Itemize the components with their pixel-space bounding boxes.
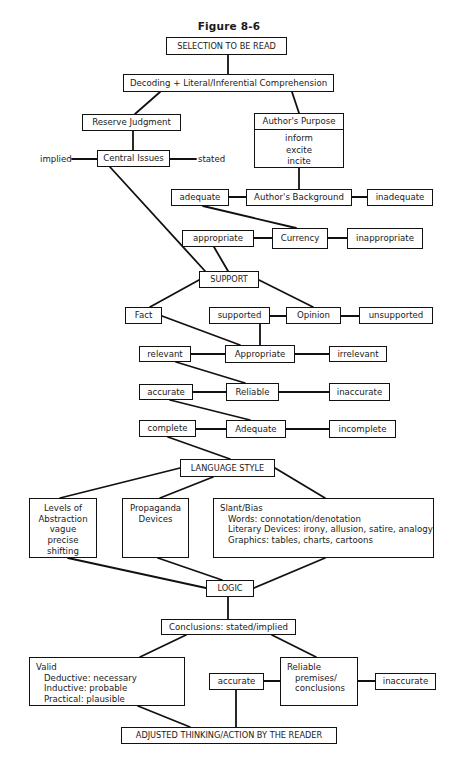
propaganda-line: Devices	[139, 514, 173, 525]
node-premises-inaccurate: inaccurate	[375, 673, 436, 690]
node-adjusted-thinking: ADJUSTED THINKING/ACTION BY THE READER	[121, 727, 337, 744]
node-currency: Currency	[272, 228, 328, 249]
node-language-style: LANGUAGE STYLE	[180, 459, 275, 477]
figure-title: Figure 8-6	[0, 20, 458, 32]
levels-line: Levels of	[44, 503, 82, 514]
node-appropriate: Appropriate	[225, 345, 295, 363]
slant-bias-line: Graphics: tables, charts, cartoons	[220, 535, 373, 546]
slant-bias-line: Words: connotation/denotation	[220, 514, 361, 525]
purpose-item: incite	[287, 156, 311, 167]
node-slant-bias: Slant/Bias Words: connotation/denotation…	[213, 498, 434, 558]
authors-purpose-header: Author's Purpose	[255, 114, 343, 130]
reliable-premises-line: premises/	[287, 673, 337, 684]
propaganda-line: Propaganda	[130, 503, 181, 514]
slant-bias-heading: Slant/Bias	[220, 503, 263, 514]
levels-line: Abstraction	[38, 514, 87, 525]
valid-line: Inductive: probable	[36, 683, 127, 694]
node-fact: Fact	[125, 307, 162, 324]
purpose-item: inform	[285, 133, 313, 144]
label-stated: stated	[198, 155, 225, 164]
node-levels-of-abstraction: Levels of Abstraction vague precise shif…	[29, 498, 97, 558]
valid-line: Deductive: necessary	[36, 673, 137, 684]
node-complete: complete	[139, 420, 196, 437]
levels-line: shifting	[47, 546, 79, 557]
valid-line: Practical: plausible	[36, 694, 125, 705]
slant-bias-line: Literary Devices: irony, allusion, satir…	[220, 524, 433, 535]
valid-heading: Valid	[36, 662, 57, 673]
node-valid: Valid Deductive: necessary Inductive: pr…	[29, 657, 185, 706]
node-central-issues: Central Issues	[97, 150, 170, 167]
node-opinion-supported: supported	[209, 307, 270, 324]
node-premises-accurate: accurate	[209, 673, 264, 690]
node-authors-purpose: Author's Purpose inform excite incite	[254, 113, 344, 168]
node-reliable-premises: Reliable premises/ conclusions	[280, 657, 358, 706]
node-opinion-unsupported: unsupported	[359, 307, 433, 324]
levels-line: precise	[48, 535, 79, 546]
node-support: SUPPORT	[199, 271, 259, 288]
node-authors-background: Author's Background	[246, 189, 352, 206]
node-decoding-comprehension: Decoding + Literal/Inferential Comprehen…	[123, 74, 334, 92]
node-adequate: Adequate	[226, 420, 286, 438]
node-selection-to-be-read: SELECTION TO BE READ	[166, 37, 287, 55]
authors-purpose-items: inform excite incite	[285, 130, 313, 167]
node-currency-appropriate: appropriate	[182, 230, 254, 247]
levels-line: vague	[50, 524, 77, 535]
node-inaccurate: inaccurate	[329, 383, 390, 401]
node-currency-inappropriate: inappropriate	[347, 228, 423, 249]
node-background-adequate: adequate	[171, 189, 229, 206]
node-propaganda-devices: Propaganda Devices	[122, 498, 189, 558]
node-reliable: Reliable	[226, 383, 279, 401]
node-accurate: accurate	[139, 384, 193, 400]
node-relevant: relevant	[139, 346, 191, 362]
reliable-premises-line: Reliable	[287, 662, 321, 673]
node-incomplete: incomplete	[329, 420, 396, 438]
reliable-premises-line: conclusions	[287, 683, 345, 694]
purpose-item: excite	[286, 145, 312, 156]
node-reserve-judgment: Reserve Judgment	[82, 114, 181, 131]
label-implied: implied	[40, 155, 72, 164]
flowchart-canvas: Figure 8-6 SELECTION TO BE READ Decoding…	[0, 0, 458, 774]
node-background-inadequate: inadequate	[367, 189, 433, 206]
node-irrelevant: irrelevant	[329, 346, 387, 362]
node-conclusions: Conclusions: stated/implied	[161, 619, 296, 635]
node-logic: LOGIC	[206, 580, 254, 597]
node-opinion: Opinion	[286, 307, 341, 324]
